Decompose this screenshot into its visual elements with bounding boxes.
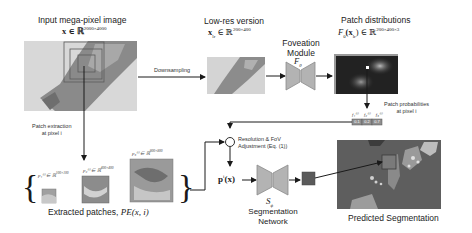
left-brace: { (22, 168, 38, 205)
patch-3-dims: 800×800 (150, 149, 163, 153)
seg-line2: Network (246, 217, 300, 227)
input-image-math: x ∈ ℝ2000×4000 (62, 26, 107, 36)
input-image-title: Input mega-pixel image (38, 15, 126, 25)
pp-line1: Patch probabilities (384, 101, 429, 108)
pd-tail: ) ∈ ℝ (356, 27, 376, 37)
predicted-segmentation-image (337, 140, 441, 209)
input-image-dims: 2000×4000 (84, 26, 107, 31)
extracted-patches-label: Extracted patches, PE(x, i) (48, 207, 149, 217)
patch-1-dims: 100×100 (56, 171, 69, 175)
low-res-math: xlr ∈ ℝ200×400 (208, 27, 251, 39)
patch-location-box (382, 155, 396, 169)
patch-distributions-math: Fθ(xlr) ∈ ℝ200×400×3 (338, 27, 399, 39)
adjustment-node (226, 138, 235, 147)
f3-symbol: f₃⁽ⁱ⁾ (376, 111, 382, 117)
predicted-segmentation-label: Predicted Segmentation (348, 213, 439, 223)
input-image (24, 41, 137, 111)
extracted-patches-math: PE(x, i) (121, 207, 149, 217)
patch-extraction-label: Patch extraction at pixel i (32, 123, 71, 137)
patch-1-symbol-text: p₁⁽ⁱ⁾ ∈ ℝ (38, 173, 56, 178)
patch-2-dims: 400×400 (101, 166, 114, 170)
low-res-tail: ∈ ℝ (215, 27, 233, 37)
patch-2-symbol-text: p₂⁽ⁱ⁾ ∈ ℝ (83, 168, 101, 173)
patch-distributions-title: Patch distributions (341, 15, 410, 25)
pe-line1: Patch extraction (32, 123, 71, 130)
f2-symbol: f₂⁽ⁱ⁾ (364, 111, 370, 117)
foveation-symbol: Fθ (294, 56, 302, 68)
segmentation-network-shape (257, 165, 288, 195)
pe-line2: at pixel i (32, 130, 71, 137)
prob-value-1: 0.1 (352, 119, 362, 125)
low-res-image (207, 57, 265, 94)
prob-value-3: 0.7 (372, 119, 382, 125)
extracted-patches-text: Extracted patches, (48, 207, 121, 217)
pd-mid: (x (346, 27, 353, 37)
patch-3-symbol: p₃⁽ⁱ⁾ ∈ ℝ800×800 (132, 149, 163, 156)
patch-3-symbol-text: p₃⁽ⁱ⁾ ∈ ℝ (132, 151, 150, 156)
low-res-dims: 200×400 (233, 27, 251, 32)
prob-value-2: 0.2 (362, 119, 372, 125)
f1-symbol: f₁⁽ⁱ⁾ (352, 111, 358, 117)
probability-symbols: f₁⁽ⁱ⁾ f₂⁽ⁱ⁾ f₃⁽ⁱ⁾ (352, 111, 382, 117)
input-image-symbol: x ∈ ℝ (62, 26, 84, 36)
segmentation-network-label: Segmentation Network (246, 207, 300, 227)
patch-1-symbol: p₁⁽ⁱ⁾ ∈ ℝ100×100 (38, 171, 69, 178)
output-patch (302, 172, 315, 185)
pd-dims: 200×400×3 (376, 27, 399, 32)
downsampling-label: Downsampling (154, 67, 190, 74)
low-res-title: Low-res version (204, 16, 264, 26)
patch-distribution-heatmap (334, 54, 398, 94)
foveation-title-line1: Foveation (278, 38, 324, 48)
p-tail: (x) (224, 174, 235, 184)
patch-2-symbol: p₂⁽ⁱ⁾ ∈ ℝ400×400 (83, 166, 114, 173)
right-brace: } (178, 168, 194, 205)
probability-values: 0.1 0.2 0.7 (352, 119, 382, 125)
adjustment-line1: Resolution & FoV (238, 136, 287, 143)
seg-line1: Segmentation (246, 207, 300, 217)
p-of-x: pi(x) (218, 174, 235, 184)
adjustment-label: Resolution & FoV Adjustment (Eq. (1)) (238, 136, 287, 150)
adjustment-line2: Adjustment (Eq. (1)) (238, 143, 287, 150)
foveation-symbol-sub: θ (299, 63, 301, 68)
patch-probabilities-label: Patch probabilities at pixel i (384, 101, 429, 115)
pp-line2: at pixel i (384, 108, 429, 115)
foveation-title: Foveation Module (278, 38, 324, 58)
